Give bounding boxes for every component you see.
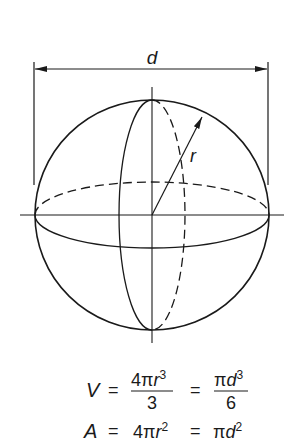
volume-equals-2: = [190, 380, 201, 400]
area-formula: A = 4πr2 = πd2 [83, 420, 242, 442]
area-symbol: A [83, 420, 97, 442]
sphere-diagram: d r V = 4πr3 3 = πd3 6 A = 4πr2 = [0, 0, 294, 445]
volume-frac1-numerator: 4πr3 [131, 368, 166, 390]
volume-frac2-denominator: 6 [226, 393, 236, 413]
volume-frac1-denominator: 3 [147, 393, 157, 413]
diameter-label: d [147, 47, 159, 68]
area-term1: 4πr2 [133, 420, 168, 442]
area-equals-1: = [108, 421, 119, 441]
volume-symbol: V [86, 379, 101, 401]
volume-equals-1: = [108, 380, 119, 400]
area-equals-2: = [190, 421, 201, 441]
volume-formula: V = 4πr3 3 = πd3 6 [86, 368, 248, 413]
radius-label: r [190, 146, 197, 166]
volume-frac2-numerator: πd3 [214, 368, 243, 390]
area-term2: πd2 [213, 420, 242, 442]
radius-arrow [152, 117, 202, 215]
